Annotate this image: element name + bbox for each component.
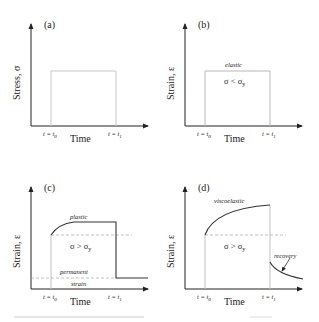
t1-label: t = t1 [262,293,276,302]
t0-label: t = t0 [43,130,57,139]
panel-label: (d) [198,182,210,194]
cropped-caption [14,316,272,318]
elastic-annotation: elastic [225,61,242,68]
plastic-annotation: plastic [69,213,87,220]
x-axis-label: Time [224,296,245,307]
panel-c: (c) Strain, ε Time plastic σ > σy perman… [11,182,148,307]
condition-label: σ > σy [70,241,91,252]
viscoelastic-creep-curve [205,205,270,235]
panel-label: (c) [44,182,55,194]
panel-label: (a) [44,19,55,31]
panel-label: (b) [198,19,210,31]
strain-label: strain [71,280,86,287]
t0-label: t = t0 [197,293,211,302]
t1-label: t = t1 [108,130,122,139]
t0-label: t = t0 [197,130,211,139]
y-axis-label: Strain, ε [165,67,176,100]
panel-a: (a) Stress, σ Time t = t0 t = t1 [11,19,148,144]
y-axis-label: Strain, ε [165,235,176,268]
recovery-arrow-icon [282,258,290,271]
t0-label: t = t0 [43,293,57,302]
y-axis-label: Strain, ε [11,235,22,268]
panel-d: (d) Strain, ε Time viscoelastic σ > σy r… [165,182,303,307]
t1-label: t = t1 [108,293,122,302]
figure-canvas: (a) Stress, σ Time t = t0 t = t1 (b) Str… [0,0,319,322]
recovery-annotation: recovery [274,252,297,259]
x-axis-label: Time [224,133,245,144]
x-axis-label: Time [70,133,91,144]
t1-label: t = t1 [262,130,276,139]
permanent-label: permanent [59,268,88,275]
stress-pulse [51,71,116,126]
condition-label: σ > σy [224,241,245,252]
x-axis-label: Time [70,296,91,307]
panel-b: (b) Strain, ε Time elastic σ < σy t = t0… [165,19,302,144]
y-axis-label: Stress, σ [11,65,22,100]
condition-label: σ < σy [224,76,245,87]
recovery-curve [270,262,303,279]
viscoelastic-annotation: viscoelastic [214,197,244,204]
